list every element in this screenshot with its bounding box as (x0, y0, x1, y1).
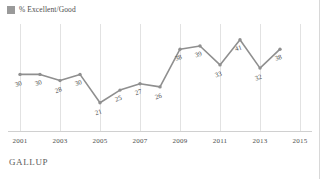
value-label-2014: 38 (274, 53, 283, 62)
data-point-2007 (138, 82, 141, 85)
value-label-2001: 30 (14, 79, 23, 88)
value-label-2006: 25 (114, 94, 123, 103)
x-tick-2013: 2013 (253, 136, 268, 146)
x-tick-2011: 2011 (213, 136, 228, 146)
data-point-2008 (158, 85, 161, 88)
value-label-2007: 27 (134, 87, 143, 96)
series-value-labels: 3030283021252726383933413238 (14, 43, 283, 116)
series-markers (18, 38, 281, 104)
gallup-line-chart: % Excellent/Good 30302830212527263839334… (0, 0, 320, 179)
x-tick-2007: 2007 (133, 136, 148, 146)
value-label-2008: 26 (154, 91, 163, 100)
brand-footer: GALLUP (9, 157, 48, 168)
line-chart-svg: 3030283021252726383933413238 (0, 22, 320, 134)
data-point-2009 (178, 48, 181, 51)
data-point-2012 (238, 38, 241, 41)
value-label-2009: 38 (174, 53, 183, 62)
value-label-2013: 32 (254, 73, 263, 82)
data-point-2014 (278, 48, 281, 51)
legend-swatch-icon (7, 6, 15, 14)
data-point-2013 (258, 66, 261, 69)
data-point-2001 (18, 73, 21, 76)
value-label-2012: 41 (234, 43, 243, 52)
data-point-2004 (78, 73, 81, 76)
value-label-2011: 33 (214, 69, 223, 78)
chart-legend: % Excellent/Good (7, 4, 76, 15)
x-tick-2015: 2015 (293, 136, 308, 146)
value-label-2005: 21 (94, 107, 103, 116)
value-label-2003: 28 (54, 85, 63, 94)
data-point-2006 (118, 88, 121, 91)
x-tick-2005: 2005 (93, 136, 108, 146)
data-point-2003 (58, 79, 61, 82)
data-point-2010 (198, 44, 201, 47)
value-label-2010: 39 (194, 50, 203, 59)
x-tick-2001: 2001 (13, 136, 28, 146)
plot-area: 3030283021252726383933413238 (0, 22, 320, 134)
x-tick-2009: 2009 (173, 136, 188, 146)
data-point-2002 (38, 73, 41, 76)
value-label-2004: 30 (74, 78, 83, 87)
x-tick-2003: 2003 (53, 136, 68, 146)
x-axis-labels: 20012003200520072009201120132015 (0, 136, 320, 150)
data-point-2011 (218, 63, 221, 66)
data-point-2005 (98, 101, 101, 104)
legend-label: % Excellent/Good (19, 5, 76, 14)
value-label-2002: 30 (34, 78, 43, 87)
